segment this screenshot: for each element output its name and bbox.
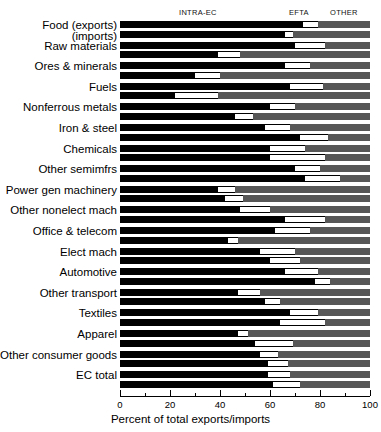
category-label: Office & telecom — [33, 225, 117, 237]
segment-intra-ec — [120, 351, 260, 358]
segment-efta — [275, 227, 310, 234]
segment-other — [328, 134, 371, 141]
segment-intra-ec — [120, 51, 218, 58]
bar-exports — [120, 42, 370, 49]
bar-imports — [120, 113, 370, 120]
segment-intra-ec — [120, 124, 265, 131]
category-label: Other semimfrs — [38, 163, 117, 175]
segment-efta — [270, 103, 295, 110]
segment-efta — [285, 216, 325, 223]
segment-intra-ec — [120, 103, 270, 110]
bar-exports — [120, 309, 370, 316]
segment-intra-ec — [120, 237, 228, 244]
bar-imports — [120, 92, 370, 99]
segment-efta — [285, 62, 310, 69]
category-label: Other consumer goods — [0, 349, 117, 361]
segment-other — [325, 216, 370, 223]
segment-other — [280, 298, 370, 305]
segment-efta — [270, 257, 300, 264]
segment-other — [325, 319, 370, 326]
segment-other — [300, 381, 370, 388]
segment-efta — [238, 330, 248, 337]
bar-exports — [120, 186, 370, 193]
x-tick — [320, 390, 321, 396]
bar-exports — [120, 103, 370, 110]
segment-other — [300, 257, 370, 264]
segment-intra-ec — [120, 330, 238, 337]
segment-other — [318, 309, 371, 316]
category-label: Raw materials — [44, 40, 117, 52]
x-tick-minor — [145, 393, 146, 396]
segment-other — [310, 62, 370, 69]
bar-imports — [120, 257, 370, 264]
segment-other — [218, 92, 371, 99]
segment-efta — [260, 248, 295, 255]
segment-intra-ec — [120, 340, 255, 347]
x-tick-label: 0 — [117, 399, 122, 410]
x-tick-label: 40 — [215, 399, 226, 410]
segment-other — [253, 113, 371, 120]
segment-efta — [295, 42, 325, 49]
bar-imports — [120, 31, 370, 38]
segment-intra-ec — [120, 360, 268, 367]
segment-other — [318, 268, 371, 275]
segment-efta — [195, 72, 220, 79]
x-tick-minor — [195, 393, 196, 396]
bar-exports — [120, 83, 370, 90]
segment-efta — [265, 298, 280, 305]
x-tick-label: 100 — [362, 399, 378, 410]
segment-other — [305, 145, 370, 152]
category-label: Textiles — [79, 307, 117, 319]
category-label: EC total — [76, 369, 117, 381]
segment-efta — [273, 381, 301, 388]
segment-intra-ec — [120, 113, 235, 120]
category-label: Nonferrous metals — [23, 101, 117, 113]
segment-efta — [270, 154, 325, 161]
bar-imports — [120, 216, 370, 223]
segment-efta — [303, 21, 318, 28]
bar-imports — [120, 360, 370, 367]
segment-intra-ec — [120, 175, 305, 182]
segment-efta — [218, 51, 241, 58]
segment-efta — [290, 309, 318, 316]
segment-intra-ec — [120, 145, 270, 152]
x-tick-label: 20 — [165, 399, 176, 410]
segment-intra-ec — [120, 134, 300, 141]
segment-other — [340, 175, 370, 182]
x-tick-minor — [345, 393, 346, 396]
category-label: Power gen machinery — [6, 184, 117, 196]
segment-intra-ec — [120, 319, 280, 326]
category-label: Apparel — [77, 328, 117, 340]
segment-intra-ec — [120, 83, 290, 90]
category-label: Ores & minerals — [35, 60, 117, 72]
segment-efta — [285, 268, 318, 275]
bar-imports — [120, 51, 370, 58]
segment-efta — [240, 206, 270, 213]
bar-exports — [120, 62, 370, 69]
segment-intra-ec — [120, 31, 285, 38]
segment-efta — [235, 113, 253, 120]
segment-efta — [218, 186, 236, 193]
category-label: Chemicals — [63, 143, 117, 155]
x-tick — [270, 390, 271, 396]
plot-area — [120, 0, 370, 432]
x-tick-label: 80 — [315, 399, 326, 410]
segment-other — [288, 360, 371, 367]
segment-efta — [225, 195, 243, 202]
segment-intra-ec — [120, 298, 265, 305]
segment-other — [270, 206, 370, 213]
segment-intra-ec — [120, 92, 175, 99]
segment-intra-ec — [120, 154, 270, 161]
bar-imports — [120, 195, 370, 202]
x-axis-line — [120, 396, 370, 397]
segment-intra-ec — [120, 309, 290, 316]
segment-efta — [305, 175, 340, 182]
bar-imports — [120, 298, 370, 305]
segment-intra-ec — [120, 278, 315, 285]
bar-imports — [120, 278, 370, 285]
segment-other — [318, 21, 371, 28]
category-label: Iron & steel — [59, 122, 117, 134]
bar-exports — [120, 145, 370, 152]
x-tick — [370, 390, 371, 396]
segment-other — [293, 31, 371, 38]
